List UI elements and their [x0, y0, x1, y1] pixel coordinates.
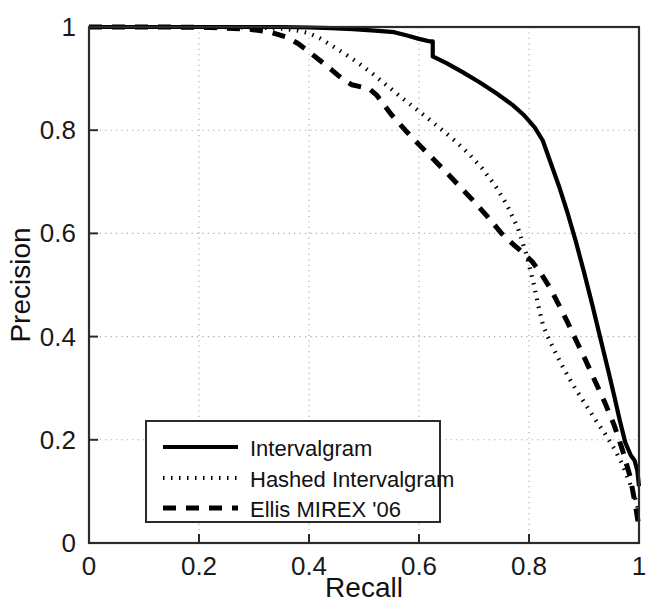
y-axis-title: Precision: [5, 227, 36, 342]
legend-label-ellis-mirex: Ellis MIREX '06: [250, 497, 401, 522]
x-axis-title: Recall: [325, 572, 403, 603]
chart-figure: 00.20.40.60.81 00.20.40.60.81 Recall Pre…: [0, 0, 667, 615]
legend-label-hashed-intervalgram: Hashed Intervalgram: [250, 467, 454, 492]
x-tick-label: 0.8: [511, 551, 547, 581]
legend: Intervalgram Hashed Intervalgram Ellis M…: [146, 421, 454, 522]
x-tick-label: 0: [82, 551, 96, 581]
precision-recall-plot: 00.20.40.60.81 00.20.40.60.81 Recall Pre…: [0, 0, 667, 615]
y-tick-label: 0.2: [40, 425, 76, 455]
x-tick-label: 0.4: [291, 551, 327, 581]
y-tick-label: 0.8: [40, 115, 76, 145]
legend-label-intervalgram: Intervalgram: [250, 436, 372, 461]
x-tick-label: 0.6: [401, 551, 437, 581]
x-tick-label: 0.2: [181, 551, 217, 581]
y-tick-label: 0: [62, 528, 76, 558]
y-tick-label: 0.4: [40, 322, 76, 352]
x-tick-label: 1: [632, 551, 646, 581]
y-tick-label: 1: [62, 12, 76, 42]
y-tick-label: 0.6: [40, 218, 76, 248]
